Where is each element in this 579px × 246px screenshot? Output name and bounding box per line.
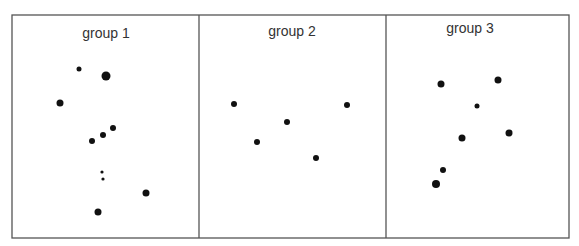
data-point <box>143 190 150 197</box>
panel-group-1: group 1 <box>57 25 150 216</box>
data-point <box>506 130 513 137</box>
scatter-figure: group 1group 2group 3 <box>0 0 579 246</box>
panel-dividers <box>199 15 386 238</box>
data-point <box>344 102 350 108</box>
data-point <box>101 177 104 180</box>
panel-group-2: group 2 <box>231 23 350 161</box>
panel-title: group 1 <box>82 25 130 41</box>
data-point <box>110 125 116 131</box>
data-point <box>57 100 64 107</box>
data-point <box>495 77 502 84</box>
data-point <box>459 135 466 142</box>
data-point <box>440 167 446 173</box>
data-point <box>89 138 95 144</box>
data-point <box>77 67 82 72</box>
panel-title: group 2 <box>268 23 316 39</box>
data-point <box>313 155 319 161</box>
data-point <box>438 81 445 88</box>
data-point <box>100 170 103 173</box>
data-point <box>284 119 290 125</box>
data-point <box>254 139 260 145</box>
data-point <box>102 72 111 81</box>
panel-title: group 3 <box>446 20 494 36</box>
data-point <box>231 101 237 107</box>
data-point <box>475 104 480 109</box>
data-point <box>100 132 106 138</box>
figure-frame <box>12 15 569 238</box>
data-point <box>95 209 102 216</box>
data-point <box>432 180 440 188</box>
panels: group 1group 2group 3 <box>57 20 513 216</box>
panel-group-3: group 3 <box>432 20 513 188</box>
